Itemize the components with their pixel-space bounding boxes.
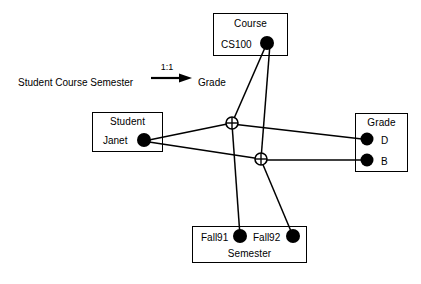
crossed-circle-icon-node2[interactable] (255, 153, 267, 165)
filled-dot-grade-b[interactable] (361, 154, 374, 167)
filled-dot-cs100[interactable] (260, 36, 274, 50)
filled-dot-fall91[interactable] (233, 229, 247, 243)
nodes-layer (0, 0, 421, 284)
filled-dot-janet[interactable] (137, 133, 151, 147)
filled-dot-fall92[interactable] (286, 229, 300, 243)
filled-dot-grade-d[interactable] (361, 133, 374, 146)
relationship-diagram: Student Course Semester 1:1 Grade Course… (0, 0, 421, 284)
crossed-circle-icon-node1[interactable] (226, 117, 238, 129)
